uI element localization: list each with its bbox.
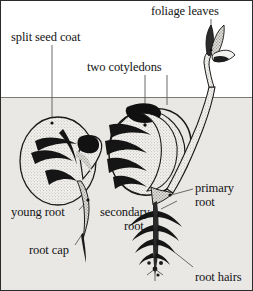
dot-young-root	[86, 198, 89, 201]
label-two-cotyledons: two cotyledons	[87, 61, 162, 74]
label-primary-root-line2: root	[195, 196, 215, 209]
dot-foliage-leaves	[210, 49, 213, 52]
label-foliage-leaves: foliage leaves	[151, 5, 219, 18]
dot-two-cotyledons	[143, 123, 146, 126]
label-primary-root: primary	[195, 182, 234, 195]
label-secondary-root-line2: root	[124, 220, 144, 233]
germination-diagram: foliage leaves split seed coat two cotyl…	[0, 0, 253, 291]
label-root-cap: root cap	[29, 244, 69, 257]
label-secondary-root: secondary	[100, 206, 150, 219]
label-young-root: young root	[11, 206, 65, 219]
label-root-hairs: root hairs	[195, 271, 242, 284]
split-seed-coat-mark	[77, 135, 99, 153]
dot-split-seed-coat	[50, 121, 53, 124]
label-split-seed-coat: split seed coat	[11, 31, 80, 44]
dot-primary-root	[168, 193, 171, 196]
